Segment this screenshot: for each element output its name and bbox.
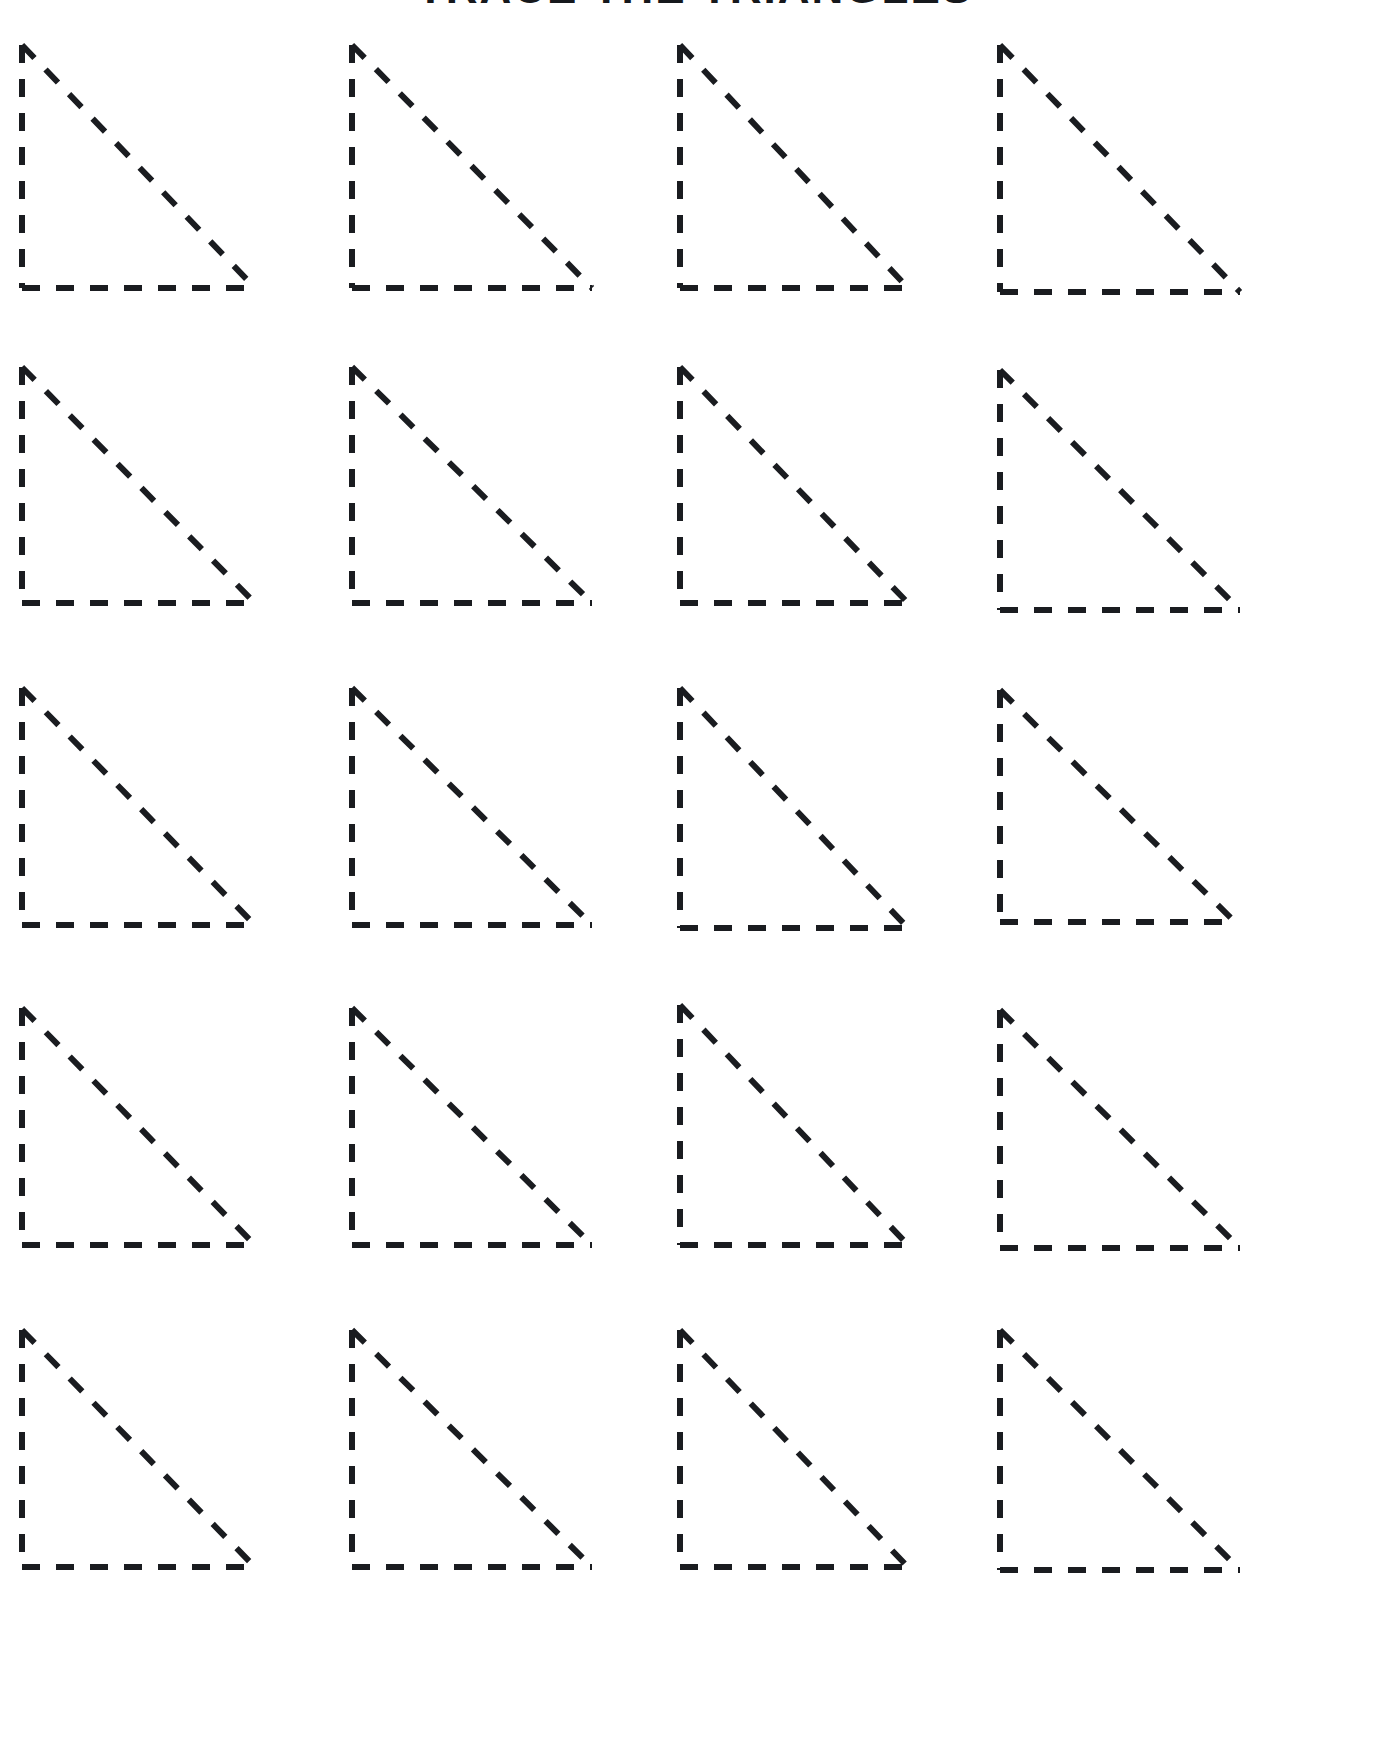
triangle-outline-r1c1 <box>10 33 267 300</box>
tracing-triangle-r2c3[interactable] <box>668 355 920 615</box>
triangle-outline-r1c4 <box>988 33 1252 304</box>
triangle-outline-r3c4 <box>988 678 1247 934</box>
triangle-outline-r2c1 <box>10 355 267 615</box>
triangle-hypotenuse <box>352 367 592 603</box>
triangle-outline-r3c1 <box>10 676 267 937</box>
triangle-hypotenuse <box>680 45 908 288</box>
tracing-triangle-r5c4[interactable] <box>988 1318 1252 1582</box>
tracing-triangle-r5c1[interactable] <box>10 1318 267 1579</box>
triangle-outline-r3c3 <box>668 676 920 940</box>
triangle-outline-r3c2 <box>340 676 604 937</box>
tracing-triangle-r3c3[interactable] <box>668 676 920 940</box>
tracing-triangle-r1c3[interactable] <box>668 33 920 300</box>
triangle-hypotenuse <box>22 45 255 288</box>
triangle-hypotenuse <box>1000 45 1240 292</box>
triangle-hypotenuse <box>1000 690 1235 922</box>
tracing-triangle-r3c2[interactable] <box>340 676 604 937</box>
triangle-hypotenuse <box>1000 1010 1240 1248</box>
triangle-outline-r5c4 <box>988 1318 1252 1582</box>
tracing-triangle-r1c2[interactable] <box>340 33 604 300</box>
tracing-triangle-r2c1[interactable] <box>10 355 267 615</box>
tracing-triangle-r1c4[interactable] <box>988 33 1252 304</box>
triangle-outline-r4c4 <box>988 998 1252 1260</box>
triangle-outline-r2c3 <box>668 355 920 615</box>
triangle-hypotenuse <box>1000 1330 1240 1570</box>
triangle-hypotenuse <box>1000 370 1240 610</box>
triangle-hypotenuse <box>352 1330 592 1567</box>
tracing-triangle-r3c4[interactable] <box>988 678 1247 934</box>
triangle-hypotenuse <box>680 1330 908 1567</box>
worksheet-page: TRACE THE TRIANGLES <box>0 0 1390 1753</box>
triangle-outline-r4c1 <box>10 996 267 1257</box>
triangle-outline-r1c3 <box>668 33 920 300</box>
tracing-triangle-r5c2[interactable] <box>340 1318 604 1579</box>
triangle-hypotenuse <box>680 1005 908 1245</box>
triangle-hypotenuse <box>352 688 592 925</box>
triangle-hypotenuse <box>22 1330 255 1567</box>
tracing-triangle-r4c4[interactable] <box>988 998 1252 1260</box>
tracing-triangle-r2c4[interactable] <box>988 358 1252 622</box>
triangle-hypotenuse <box>22 1008 255 1245</box>
tracing-triangle-r1c1[interactable] <box>10 33 267 300</box>
triangle-hypotenuse <box>352 1008 592 1245</box>
triangle-outline-r5c2 <box>340 1318 604 1579</box>
triangle-outline-r2c2 <box>340 355 604 615</box>
triangle-outline-r4c2 <box>340 996 604 1257</box>
tracing-triangle-r5c3[interactable] <box>668 1318 920 1579</box>
triangle-outline-r4c3 <box>668 993 920 1257</box>
tracing-triangle-r3c1[interactable] <box>10 676 267 937</box>
triangle-outline-r2c4 <box>988 358 1252 622</box>
triangle-outline-r1c2 <box>340 33 604 300</box>
triangle-grid <box>0 0 1390 1753</box>
triangle-outline-r5c3 <box>668 1318 920 1579</box>
triangle-outline-r5c1 <box>10 1318 267 1579</box>
triangle-hypotenuse <box>22 367 255 603</box>
tracing-triangle-r4c2[interactable] <box>340 996 604 1257</box>
triangle-hypotenuse <box>680 367 908 603</box>
triangle-hypotenuse <box>680 688 908 928</box>
tracing-triangle-r2c2[interactable] <box>340 355 604 615</box>
tracing-triangle-r4c3[interactable] <box>668 993 920 1257</box>
triangle-hypotenuse <box>22 688 255 925</box>
triangle-hypotenuse <box>352 45 592 288</box>
tracing-triangle-r4c1[interactable] <box>10 996 267 1257</box>
